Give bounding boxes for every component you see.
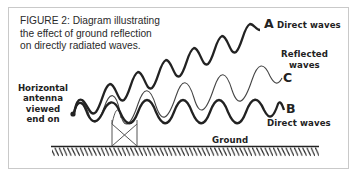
ground-hatching — [52, 148, 319, 157]
wave-c-label-line1: Reflected — [281, 49, 328, 59]
antenna-label-line: viewed — [12, 104, 74, 114]
wave-b-letter: B — [286, 101, 296, 116]
antenna-label-line: antenna — [12, 93, 74, 103]
ground-label: Ground — [212, 135, 248, 145]
wave-c-reflected — [74, 66, 282, 124]
antenna-label-line: end on — [12, 114, 74, 124]
wave-b-label: Direct waves — [267, 118, 331, 128]
wave-a-label: Direct waves — [277, 20, 341, 30]
wave-a-letter: A — [264, 16, 274, 31]
wave-c-letter: C — [283, 70, 292, 85]
antenna-label-line: Horizontal — [12, 83, 74, 93]
antenna-label: Horizontal antenna viewed end on — [12, 83, 74, 125]
wave-a-direct — [74, 24, 260, 113]
wave-c-label-line2: waves — [289, 60, 320, 70]
